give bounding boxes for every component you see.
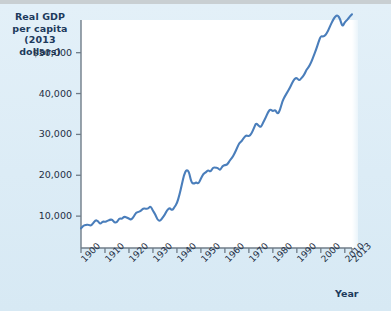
chart-figure: Real GDP per capita (2013 dollars) 10,00… [0, 0, 391, 311]
y-axis-tick-label: 40,000 [10, 89, 72, 99]
plot-area-background [81, 20, 355, 248]
y-axis-tick-label: 20,000 [10, 170, 72, 180]
y-axis-tick-label: 30,000 [10, 129, 72, 139]
y-axis-tick-labels: 10,00020,00030,00040,000$50,000 [8, 0, 72, 311]
plot-area-right-fade [352, 20, 358, 248]
y-axis-tick-label: 10,000 [10, 211, 72, 221]
x-axis-title: Year [335, 288, 359, 299]
y-axis-tick-label: $50,000 [10, 48, 72, 58]
